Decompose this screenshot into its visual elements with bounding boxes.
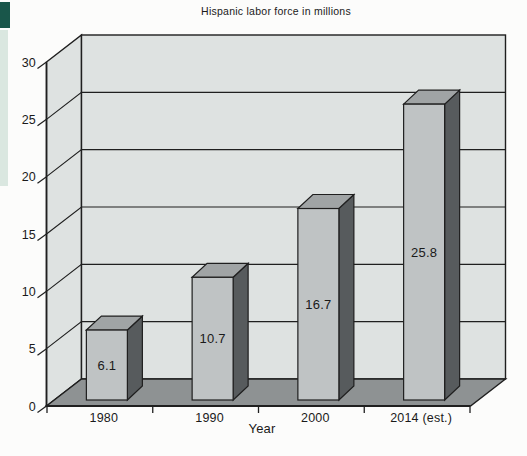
y-tick — [38, 119, 47, 126]
x-axis-label: Year — [248, 421, 276, 436]
y-tick-label: 15 — [22, 228, 36, 242]
bar-side-face — [445, 90, 460, 400]
y-tick — [38, 234, 47, 241]
x-tick-label: 2014 (est.) — [390, 411, 452, 425]
bar-side-face — [233, 263, 248, 400]
y-tick-label: 25 — [22, 113, 36, 127]
y-tick-label: 10 — [22, 285, 36, 299]
bar-side-face — [339, 195, 354, 400]
y-tick-label: 30 — [22, 56, 36, 70]
y-tick — [38, 62, 47, 69]
y-tick — [38, 349, 47, 356]
x-tick-label: 1980 — [90, 411, 119, 425]
y-tick — [38, 406, 47, 413]
x-tick-label: 2000 — [301, 411, 330, 425]
y-tick — [38, 177, 47, 184]
bar-value-label: 16.7 — [305, 297, 331, 312]
bar-value-label: 6.1 — [98, 358, 117, 373]
bar-value-label: 25.8 — [411, 245, 437, 260]
bar-value-label: 10.7 — [200, 331, 226, 346]
y-tick-label: 0 — [29, 400, 36, 414]
y-tick-label: 5 — [29, 342, 36, 356]
bar-chart-3d: 0510152025306.110.716.725.81980199020002… — [0, 0, 527, 456]
y-tick-label: 20 — [22, 170, 36, 184]
y-tick — [38, 291, 47, 298]
x-tick-label: 1990 — [195, 411, 224, 425]
